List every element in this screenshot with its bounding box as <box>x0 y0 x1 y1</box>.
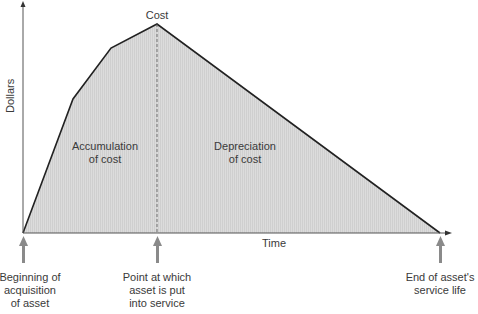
marker-label-beginning: Beginning of acquisition of asset <box>0 271 62 310</box>
marker-label-end: End of asset's service life <box>398 271 478 297</box>
peak-label: Cost <box>137 9 177 22</box>
arrow-up-icon <box>436 236 445 263</box>
arrow-up-icon <box>19 236 28 263</box>
x-axis-arrow-icon <box>445 231 452 236</box>
y-axis-label: Dollars <box>4 79 16 113</box>
region-label-depreciation: Depreciation of cost <box>195 140 295 166</box>
arrow-up-icon <box>153 236 162 263</box>
cost-area <box>23 24 440 233</box>
x-axis-label: Time <box>250 237 312 250</box>
y-axis-arrow-icon <box>21 1 26 7</box>
region-label-accumulation: Accumulation of cost <box>60 140 150 166</box>
marker-label-in-service: Point at which asset is put into service <box>117 271 197 310</box>
